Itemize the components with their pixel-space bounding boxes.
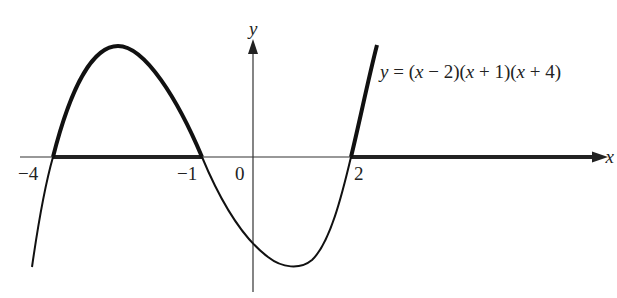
tick-label-neg1: −1 (177, 163, 197, 184)
x-axis-label: x (605, 146, 615, 167)
y-axis-label: y (247, 18, 258, 39)
equation-label: y = (x − 2)(x + 1)(x + 4) (378, 61, 561, 83)
cubic-graph: y = (x − 2)(x + 1)(x + 4) x y −4 −1 0 2 (0, 0, 617, 298)
tick-label-2: 2 (354, 163, 364, 184)
tick-label-0: 0 (235, 163, 245, 184)
curve-valley (202, 157, 351, 266)
y-axis-arrow-icon (248, 39, 258, 54)
tick-label-neg4: −4 (18, 163, 39, 184)
curve-hump (53, 46, 202, 157)
curve-right-tail (351, 45, 377, 157)
